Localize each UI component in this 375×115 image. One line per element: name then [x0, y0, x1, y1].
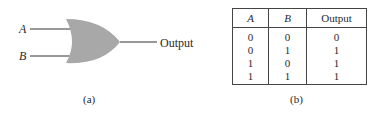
- table-row: 1 0 1: [233, 56, 367, 69]
- output-label: Output: [160, 36, 193, 51]
- header-output: Output: [307, 9, 367, 28]
- truth-table-header: A B Output: [233, 9, 367, 28]
- caption-b: (b): [290, 94, 303, 105]
- cell-a: 1: [233, 56, 269, 69]
- cell-a: 0: [233, 28, 269, 44]
- cell-output: 1: [307, 43, 367, 56]
- table-row: 0 0 0: [233, 28, 367, 44]
- cell-b: 0: [269, 28, 307, 44]
- cell-output: 1: [307, 69, 367, 85]
- cell-a: 1: [233, 69, 269, 85]
- cell-b: 1: [269, 69, 307, 85]
- or-gate-body: [66, 19, 120, 63]
- truth-table: A B Output 0 0 0 0 1 1 1 0 1 1: [232, 8, 367, 85]
- table-row: 1 1 1: [233, 69, 367, 85]
- input-a-label: A: [19, 23, 26, 35]
- header-b: B: [269, 9, 307, 28]
- input-b-label: B: [19, 50, 26, 62]
- header-a: A: [233, 9, 269, 28]
- table-row: 0 1 1: [233, 43, 367, 56]
- cell-output: 1: [307, 56, 367, 69]
- caption-a: (a): [83, 94, 95, 105]
- cell-a: 0: [233, 43, 269, 56]
- cell-b: 0: [269, 56, 307, 69]
- cell-output: 0: [307, 28, 367, 44]
- cell-b: 1: [269, 43, 307, 56]
